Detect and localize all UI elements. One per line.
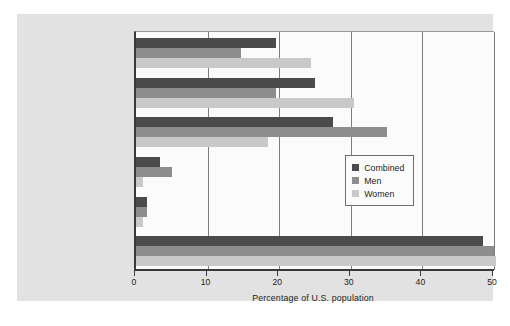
bar-group — [136, 197, 494, 227]
chart-legend: CombinedMenWomen — [345, 155, 414, 206]
bar-men — [136, 48, 241, 58]
x-tick-label: 10 — [194, 277, 218, 287]
bar-group — [136, 78, 494, 108]
bar-women — [136, 256, 496, 266]
plot-area — [134, 31, 494, 270]
chart-figure: Depression or relateddisorderPhobia, pan… — [17, 14, 493, 301]
bar-men — [136, 207, 147, 217]
x-tick-label: 20 — [265, 277, 289, 287]
x-tick-40 — [420, 271, 421, 276]
x-tick-label: 0 — [122, 277, 146, 287]
bar-combined — [136, 157, 160, 167]
bar-group — [136, 157, 494, 187]
x-axis-title: Percentage of U.S. population — [134, 293, 492, 303]
bar-combined — [136, 197, 147, 207]
x-axis-line — [134, 269, 494, 271]
bar-women — [136, 58, 311, 68]
x-tick-50 — [492, 271, 493, 276]
bar-women — [136, 177, 143, 187]
bar-combined — [136, 78, 315, 88]
bar-women — [136, 137, 268, 147]
legend-swatch-icon — [352, 177, 359, 184]
x-tick-30 — [349, 271, 350, 276]
bar-group — [136, 38, 494, 68]
gridline-50 — [494, 32, 495, 270]
legend-label: Women — [364, 189, 394, 199]
x-tick-20 — [277, 271, 278, 276]
legend-label: Men — [364, 176, 381, 186]
bar-women — [136, 98, 354, 108]
legend-item: Combined — [352, 161, 404, 174]
bar-group — [136, 117, 494, 147]
x-tick-0 — [134, 271, 135, 276]
bar-men — [136, 246, 494, 256]
bar-combined — [136, 236, 483, 246]
legend-label: Combined — [364, 163, 404, 173]
bar-combined — [136, 117, 333, 127]
bar-group — [136, 236, 494, 266]
bar-combined — [136, 38, 276, 48]
bar-men — [136, 88, 276, 98]
x-tick-10 — [206, 271, 207, 276]
x-tick-label: 40 — [408, 277, 432, 287]
bar-men — [136, 167, 172, 177]
bar-men — [136, 127, 387, 137]
x-tick-label: 50 — [480, 277, 504, 287]
x-tick-label: 30 — [337, 277, 361, 287]
legend-item: Men — [352, 174, 404, 187]
legend-swatch-icon — [352, 190, 359, 197]
legend-swatch-icon — [352, 164, 359, 171]
bar-women — [136, 217, 143, 227]
legend-item: Women — [352, 187, 404, 200]
